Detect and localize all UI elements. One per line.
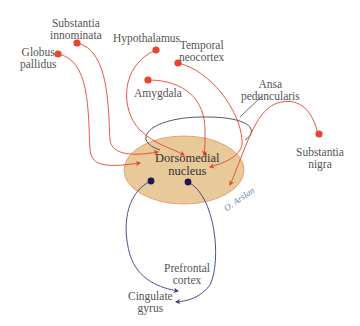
prefrontal-cortex-label: Prefrontalcortex [164,262,210,286]
ansa-peduncularis-label: Ansapeduncularis [241,78,300,102]
hypothalamus-dot [152,46,159,53]
amygdala-dot [144,76,151,83]
amygdala-label: Amygdala [134,87,182,99]
efferent-dot-left [148,178,155,185]
efferent-dot-right [185,179,192,186]
hypothalamus-label: Hypothalamus [113,32,180,44]
substantia-nigra-dot [315,130,322,137]
thalamic-connections-diagram: Globuspallidus Substantiainnominata Hypo… [0,0,360,326]
substantia-innominata-label: Substantiainnominata [50,17,102,41]
cingulate-gyrus-label: Cingulategyrus [128,290,173,314]
temporal-neocortex-label: Temporalneocortex [179,39,224,63]
globus-pallidus-label: Globuspallidus [20,46,56,70]
globus-pallidus-path [58,54,140,165]
dorsomedial-nucleus-label: Dorsomedialnucleus [155,152,220,178]
substantia-nigra-label: Substantianigra [296,146,344,170]
